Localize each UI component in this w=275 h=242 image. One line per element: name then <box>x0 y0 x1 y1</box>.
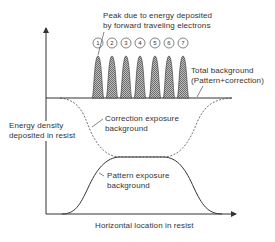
pattern-label-line-2: background <box>107 181 170 191</box>
peak-number-2: 2 <box>110 40 114 46</box>
correction-background-label: Correction exposure background <box>105 114 179 134</box>
peak-number-7: 7 <box>181 40 185 46</box>
peak-number-labels: 1 2 3 4 5 6 7 <box>96 40 185 46</box>
peak-label-line-1: Peak due to energy deposited <box>103 11 212 21</box>
pattern-background-label: Pattern exposure background <box>107 171 170 191</box>
peak-number-3: 3 <box>124 40 128 46</box>
peak-number-6: 6 <box>167 40 171 46</box>
peak-2 <box>106 56 118 98</box>
peak-3 <box>120 56 132 98</box>
pattern-label-line-1: Pattern exposure <box>107 171 170 181</box>
peak-1 <box>92 56 104 98</box>
total-background-leader <box>197 86 203 97</box>
peak-number-5: 5 <box>153 40 157 46</box>
pattern-leader <box>99 173 104 176</box>
peak-number-1: 1 <box>96 40 100 46</box>
x-axis-label: Horizontal location in resist <box>95 221 194 231</box>
correction-label-line-2: background <box>105 124 179 134</box>
peak-7 <box>177 56 189 98</box>
peak-number-4: 4 <box>138 40 142 46</box>
total-background-line-1: Total background <box>191 66 264 76</box>
correction-leader <box>92 119 103 127</box>
peak-label: Peak due to energy deposited by forward … <box>103 11 212 31</box>
forward-electron-peaks <box>92 56 189 98</box>
peak-4 <box>134 56 146 98</box>
peak-label-line-2: by forward traveling electrons <box>103 21 212 31</box>
y-axis-label: Energy density deposited in resist <box>9 121 75 141</box>
y-axis-label-line-2: deposited in resist <box>9 131 75 141</box>
peak-5 <box>149 56 161 98</box>
y-axis-label-line-1: Energy density <box>9 121 75 131</box>
total-background-label: Total background (Pattern+correction) <box>191 66 264 86</box>
total-background-line-2: (Pattern+correction) <box>191 76 264 86</box>
peak-6 <box>163 56 175 98</box>
correction-label-line-1: Correction exposure <box>105 114 179 124</box>
x-axis-label-text: Horizontal location in resist <box>95 221 194 231</box>
